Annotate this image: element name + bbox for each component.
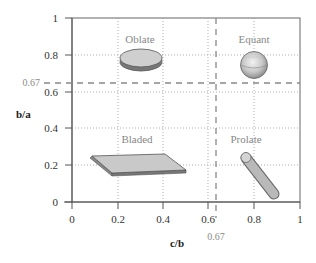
x-tick-0.6: 0.6 bbox=[201, 213, 215, 225]
y-tick-0.2: 0.2 bbox=[44, 159, 58, 171]
x-axis-title: c/b bbox=[170, 237, 184, 249]
y-tick-0.4: 0.4 bbox=[44, 122, 58, 134]
region-label-prolate: Prolate bbox=[230, 133, 261, 145]
x-tick-0: 0 bbox=[69, 213, 75, 225]
x-tick-0.2: 0.2 bbox=[111, 213, 125, 225]
y-threshold-label: 0.67 bbox=[23, 77, 41, 88]
prolate-rod-icon bbox=[241, 153, 274, 195]
grid-lines bbox=[72, 18, 300, 202]
bladed-plate-icon bbox=[90, 154, 186, 176]
x-tick-1: 1 bbox=[297, 213, 303, 225]
oblate-disk-icon bbox=[120, 49, 162, 71]
region-label-bladed: Bladed bbox=[121, 133, 153, 145]
y-tick-0.6: 0.6 bbox=[44, 86, 58, 98]
x-tick-0.4: 0.4 bbox=[156, 213, 170, 225]
plot-frame bbox=[72, 18, 300, 202]
region-label-equant: Equant bbox=[238, 33, 269, 45]
y-tick-0: 0 bbox=[53, 196, 59, 208]
y-axis-title: b/a bbox=[16, 108, 31, 120]
region-label-oblate: Oblate bbox=[125, 33, 154, 45]
y-tick-0.8: 0.8 bbox=[44, 49, 58, 61]
x-threshold-label: 0.67 bbox=[207, 231, 225, 242]
zingg-diagram: 1 0.8 0.6 0.4 0.2 0 0.67 0 0.2 0.4 0.6 0… bbox=[0, 0, 316, 263]
x-tick-0.8: 0.8 bbox=[247, 213, 261, 225]
equant-sphere-icon bbox=[241, 52, 268, 79]
y-tick-1: 1 bbox=[53, 12, 59, 24]
